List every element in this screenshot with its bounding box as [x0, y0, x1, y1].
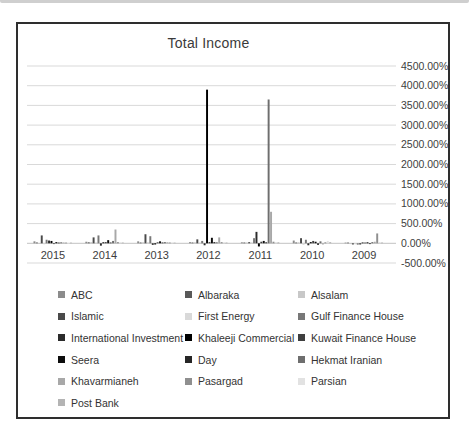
bar — [152, 243, 154, 245]
legend-item: First Energy — [185, 310, 298, 322]
bar — [149, 236, 151, 243]
bar — [305, 240, 307, 244]
legend-label: Albaraka — [198, 289, 239, 301]
bar — [209, 242, 211, 243]
legend-swatch — [58, 356, 65, 363]
legend-label: Khavarmianeh — [71, 375, 139, 387]
bar — [349, 243, 351, 244]
bar — [70, 243, 72, 244]
bar — [95, 243, 97, 244]
bar — [251, 242, 253, 243]
bar — [58, 243, 60, 244]
bar — [199, 243, 201, 244]
bar — [119, 242, 121, 243]
legend-swatch — [298, 356, 305, 363]
bar — [211, 238, 213, 244]
legend-swatch — [185, 378, 192, 385]
y-axis-tick-label: 1500.00% — [401, 178, 448, 190]
legend-label: Gulf Finance House — [311, 310, 404, 322]
legend-item: Post Bank — [58, 397, 185, 409]
chart-legend: ABCAlbarakaAlsalamIslamicFirst EnergyGul… — [58, 284, 442, 414]
legend-item: Seera — [58, 354, 185, 366]
x-axis-tick-label: 2009 — [352, 249, 376, 261]
bar — [322, 243, 324, 244]
bar — [142, 242, 144, 243]
legend-label: Kuwait Finance House — [311, 332, 416, 344]
legend-swatch — [185, 334, 192, 341]
bar — [270, 212, 272, 244]
legend-item: Albaraka — [185, 289, 298, 301]
y-axis-tick-label: 3500.00% — [401, 99, 448, 111]
bar — [268, 99, 270, 243]
legend-swatch — [185, 313, 192, 320]
bar — [147, 242, 149, 243]
legend-swatch — [298, 334, 305, 341]
bar — [206, 90, 208, 244]
bar — [41, 235, 43, 243]
legend-item: Islamic — [58, 310, 185, 322]
bar — [140, 243, 142, 244]
x-axis-tick-label: 2015 — [41, 249, 65, 261]
bar — [63, 243, 65, 244]
bar — [204, 243, 206, 245]
legend-swatch — [58, 399, 65, 406]
bar — [258, 243, 260, 246]
bar — [273, 242, 275, 244]
bar — [115, 230, 117, 244]
bar — [53, 243, 55, 244]
legend-swatch — [58, 291, 65, 298]
legend-swatch — [298, 378, 305, 385]
bar — [357, 243, 359, 244]
legend-label: Pasargad — [198, 375, 243, 387]
legend-item: ABC — [58, 289, 185, 301]
bar — [300, 238, 302, 243]
legend-item: International Investment — [58, 332, 185, 344]
y-axis-tick-label: 1000.00% — [401, 197, 448, 209]
bar — [379, 242, 381, 243]
bar — [352, 243, 354, 244]
bar — [226, 243, 228, 244]
legend-swatch — [185, 291, 192, 298]
x-axis-tick-label: 2010 — [300, 249, 324, 261]
bar — [38, 243, 40, 244]
legend-swatch — [298, 291, 305, 298]
y-axis-tick-label: 2000.00% — [401, 158, 448, 170]
bar — [381, 243, 383, 244]
bar — [36, 243, 38, 244]
bar — [369, 243, 371, 244]
bar — [302, 243, 304, 245]
legend-item: Pasargad — [185, 375, 298, 387]
bar — [298, 242, 300, 243]
bar — [122, 243, 124, 244]
bar — [345, 243, 347, 244]
legend-label: Seera — [71, 354, 99, 366]
bar — [102, 242, 104, 243]
legend-swatch — [58, 313, 65, 320]
bar — [60, 242, 62, 243]
bar — [376, 233, 378, 243]
bar — [100, 243, 102, 245]
bar — [174, 243, 176, 244]
y-axis-tick-label: 0.00% — [401, 237, 431, 249]
bar — [55, 242, 57, 243]
y-axis-tick-label: 4000.00% — [401, 79, 448, 91]
bar — [307, 243, 309, 245]
bar — [324, 242, 326, 243]
bar — [327, 241, 329, 243]
bar — [48, 241, 50, 244]
bar — [246, 243, 248, 244]
y-axis-tick-label: -500.00% — [401, 257, 446, 269]
bar — [201, 241, 203, 243]
legend-swatch — [185, 356, 192, 363]
bar — [275, 242, 277, 243]
legend-item: Day — [185, 354, 298, 366]
bar — [248, 242, 250, 243]
bar — [162, 243, 164, 244]
x-axis-tick-label: 2013 — [144, 249, 168, 261]
legend-item: Khaleeji Commercial — [185, 332, 298, 344]
bar — [189, 242, 191, 243]
bar — [354, 243, 356, 244]
bar — [293, 241, 295, 244]
bar — [169, 243, 171, 244]
bar — [329, 242, 331, 243]
